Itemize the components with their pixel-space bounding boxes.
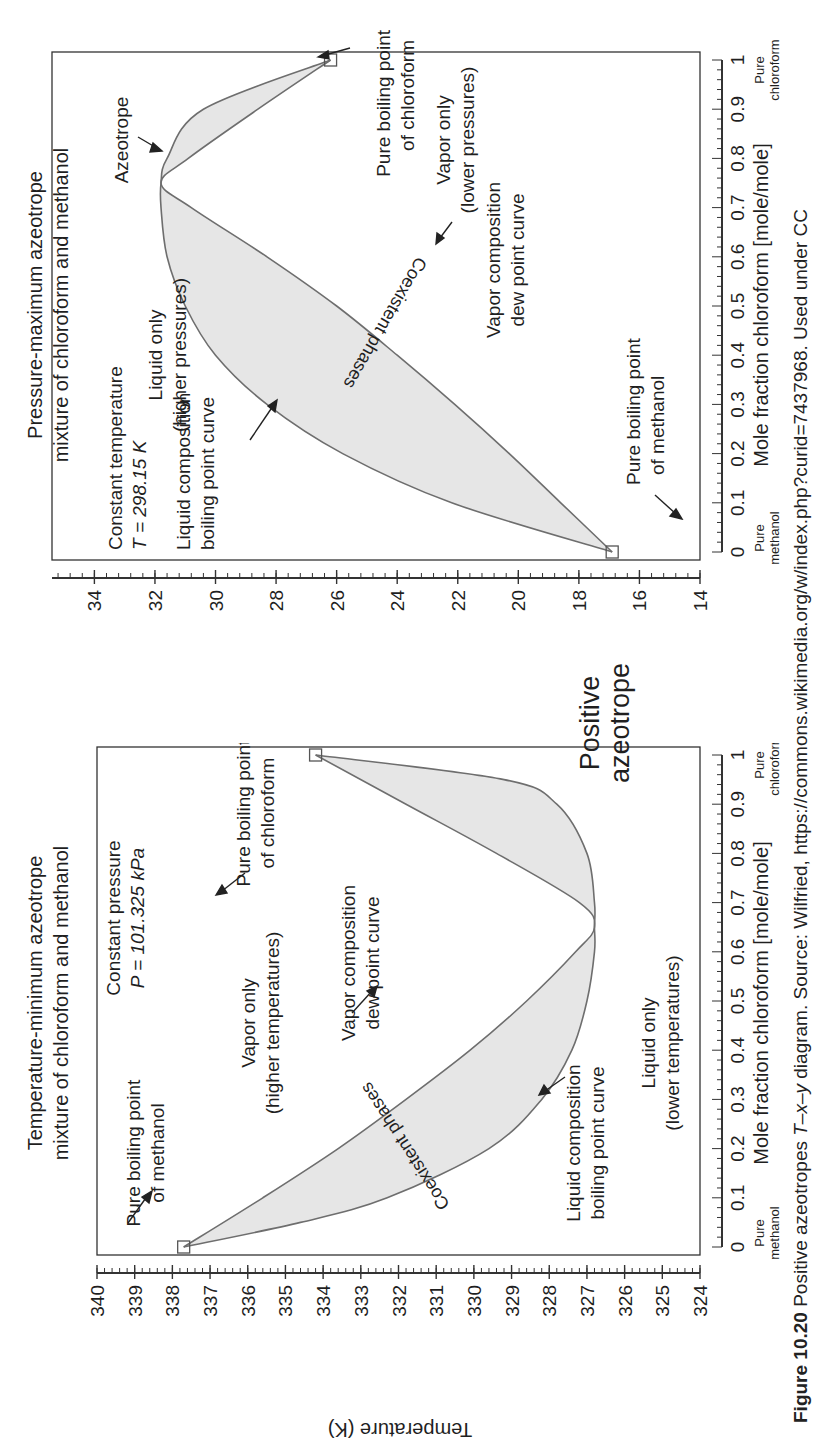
x-tick-label: 0.5: [727, 293, 748, 319]
x-tick-label: 0.2: [727, 440, 748, 466]
label-liquid-only-2: (higher pressures): [169, 278, 190, 432]
x-tick-label: 0.5: [727, 988, 748, 1014]
label-vapor-only-2: (higher temperatures): [262, 932, 283, 1115]
y-tick-label: 34: [84, 590, 105, 612]
label-chloroform-bp-1: Pure boiling point: [233, 743, 254, 886]
label-dew-curve-1: Vapor composition: [483, 182, 504, 338]
x-tick-label: 0.1: [727, 1185, 748, 1211]
y-tick-label: 332: [389, 1285, 410, 1317]
y-axis-label: Temperature (K): [328, 1419, 473, 1441]
y-tick-label: 324: [690, 1285, 711, 1317]
chart-title-line2: mixture of chloroform and methanol: [50, 846, 72, 1161]
label-vapor-only-2: (lower pressures): [457, 67, 478, 214]
x-end-label-left: Pure: [752, 524, 767, 551]
x-tick-label: 0.3: [727, 391, 748, 417]
constant-pressure-value: P = 101.325 kPa: [127, 848, 148, 988]
x-tick-label: 0.8: [727, 145, 748, 171]
label-bubble-curve-2: boiling point curve: [587, 1066, 608, 1219]
x-tick-label: 0.2: [727, 1135, 748, 1161]
x-tick-label: 1: [727, 55, 748, 66]
y-tick-label: 32: [145, 590, 166, 611]
y-tick-label: 327: [577, 1285, 598, 1317]
y-tick-label: 30: [206, 590, 227, 611]
chart-title-line1: Temperature-minimum azeotrope: [24, 856, 46, 1151]
y-tick-label: 22: [448, 590, 469, 611]
x-tick-label: 0.6: [727, 939, 748, 965]
y-tick-label: 336: [238, 1285, 259, 1317]
y-tick-label: 328: [539, 1285, 560, 1317]
label-liquid-comp-2: boiling point curve: [197, 397, 218, 550]
label-chloroform-bp-2: of chloroform: [257, 758, 278, 869]
constant-temperature-value: T = 298.15 K: [129, 439, 150, 550]
chart-title-line1: Pressure-maximum azeotrope: [24, 171, 46, 439]
x-axis-label: Mole fraction chloroform [mole/mole]: [750, 143, 772, 466]
caption-italic: T–x–y: [790, 1084, 811, 1136]
x-end-label-right: Pure: [752, 751, 767, 778]
figure-caption: Figure 10.20 Positive azeotropes T–x–y d…: [790, 23, 812, 1423]
label-dew-curve-1: Vapor composition: [338, 885, 359, 1041]
x-tick-label: 0: [727, 1242, 748, 1253]
x-tick-label: 0.3: [727, 1086, 748, 1112]
x-tick-label: 0: [727, 547, 748, 558]
y-tick-label: 18: [569, 590, 590, 611]
x-tick-label: 1: [727, 750, 748, 761]
chart-title-line2: mixture of chloroform and methanol: [50, 148, 72, 463]
y-tick-label: 329: [502, 1285, 523, 1317]
label-liquid-only-1: Liquid only: [145, 309, 166, 400]
x-tick-label: 0.8: [727, 840, 748, 866]
x-tick-label: 0.1: [727, 490, 748, 516]
caption-text-2: diagram. Source: Wilfried, https://commo…: [790, 209, 811, 1084]
y-tick-label: 28: [266, 590, 287, 611]
label-azeotrope: Azeotrope: [111, 97, 132, 184]
y-tick-label: 26: [327, 590, 348, 611]
label-liquid-only-1: Liquid only: [638, 997, 659, 1088]
x-end-label-left: methanol: [767, 511, 782, 565]
y-tick-label: 14: [690, 590, 711, 612]
constant-temperature-label: Constant temperature: [105, 366, 126, 550]
y-tick-label: 339: [125, 1285, 146, 1317]
constant-pressure-label: Constant pressure: [103, 840, 124, 995]
x-tick-label: 0.7: [727, 194, 748, 220]
y-tick-label: 337: [200, 1285, 221, 1317]
label-methanol-bp-2: of methanol: [147, 1103, 168, 1202]
label-methanol-bp-1: Pure boiling point: [623, 337, 644, 485]
label-chloroform-bp-1: Pure boiling point: [373, 29, 394, 177]
label-methanol-bp-2: of methanol: [647, 376, 668, 475]
label-vapor-only-1: Vapor only: [433, 95, 454, 185]
rotated-page: Temperature-minimum azeotrope mixture of…: [0, 0, 830, 1443]
figure-label: Figure 10.20: [790, 1312, 811, 1423]
label-liquid-only-2: (lower temperatures): [662, 955, 683, 1130]
label-dew-curve-2: dew point curve: [507, 193, 528, 326]
temperature-chart: Temperature-minimum azeotrope mixture of…: [0, 743, 790, 1443]
chart-title: Temperature-minimum azeotrope mixture of…: [24, 846, 72, 1161]
y-tick-label: 338: [162, 1285, 183, 1317]
label-bubble-curve-1: Liquid composition: [563, 1064, 584, 1221]
caption-text-1: Positive azeotropes: [790, 1136, 811, 1312]
chart-title: Pressure-maximum azeotrope mixture of ch…: [24, 148, 72, 463]
y-tick-label: 331: [426, 1285, 447, 1317]
y-tick-label: 16: [629, 590, 650, 611]
arrow-methanol-bp: [655, 495, 676, 514]
label-dew-curve-2: dew point curve: [362, 896, 383, 1029]
label-vapor-only-1: Vapor only: [238, 978, 259, 1068]
arrow-liquid-comp: [250, 406, 273, 440]
x-end-label-left: Pure: [752, 1219, 767, 1246]
x-tick-label: 0.6: [727, 244, 748, 270]
y-tick-label: 333: [351, 1285, 372, 1317]
y-tick-label: 334: [313, 1285, 334, 1317]
x-end-label-right: chloroform: [767, 743, 782, 796]
annotation-constant: Constant temperature T = 298.15 K: [105, 366, 150, 550]
x-axis-label: Mole fraction chloroform [mole/mole]: [750, 841, 772, 1164]
x-end-label-left: methanol: [767, 1206, 782, 1260]
x-tick-label: 0.7: [727, 889, 748, 915]
x-end-label-right: Pure: [752, 56, 767, 83]
x-tick-label: 0.9: [727, 791, 748, 817]
y-tick-label: 340: [87, 1285, 108, 1317]
y-tick-label: 24: [387, 590, 408, 612]
arrow-head: [216, 885, 227, 895]
y-tick-label: 325: [652, 1285, 673, 1317]
x-tick-label: 0.4: [727, 1037, 748, 1064]
label-chloroform-bp-2: of chloroform: [397, 40, 418, 151]
x-end-label-right: chloroform: [767, 39, 782, 100]
y-tick-label: 326: [615, 1285, 636, 1317]
